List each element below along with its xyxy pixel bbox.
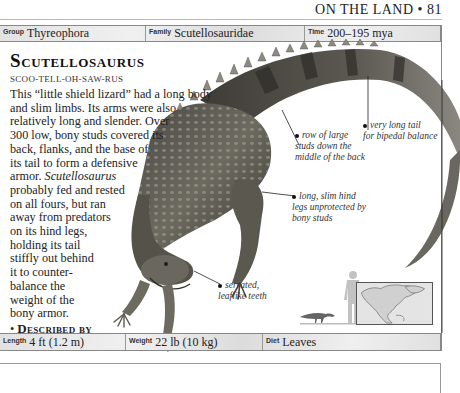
time-value: 200–195 mya (327, 26, 393, 41)
separator-bullet: • (418, 2, 423, 17)
annotation-line: middle of the back (295, 152, 365, 162)
page-number: 81 (427, 2, 442, 17)
group-value: Thyreophora (27, 26, 89, 41)
bottom-info-bar: Length 4 ft (1.2 m) Weight 22 lb (10 kg)… (0, 333, 441, 351)
header-rule (0, 19, 442, 20)
weight-cell: Weight 22 lb (10 kg) (126, 334, 263, 350)
time-cell: Time 200–195 mya (305, 26, 440, 41)
length-cell: Length 4 ft (1.2 m) (0, 334, 126, 350)
annotation-line: long, slim hind (299, 191, 356, 201)
body-line: stiffly out behind (10, 252, 210, 266)
italic-genus-name: Scutellosaurus (45, 169, 117, 183)
body-line: away from predators (10, 211, 210, 225)
pointer-dot-icon (295, 134, 299, 138)
length-value: 4 ft (1.2 m) (29, 335, 84, 350)
body-line: holding its tail (10, 239, 210, 253)
body-line: on its hind legs, (10, 225, 210, 239)
length-label: Length (3, 337, 26, 344)
diet-cell: Diet Leaves (263, 334, 440, 350)
annotation-tail: very long tail for bipedal balance (363, 120, 437, 142)
group-cell: Group Thyreophora (0, 26, 146, 41)
family-cell: Family Scutellosauridae (146, 26, 305, 41)
body-line: relatively long and slender. Over (10, 115, 210, 129)
body-line: it to counter- (10, 266, 210, 280)
pointer-dot-icon (218, 284, 222, 288)
description-text: This “little shield lizard” had a long b… (10, 88, 210, 321)
annotation-studs: row of large studs down the middle of th… (295, 130, 365, 163)
diet-label: Diet (266, 337, 279, 344)
weight-value: 22 lb (10 kg) (155, 335, 217, 350)
time-label: Time (308, 28, 324, 35)
weight-label: Weight (129, 337, 152, 344)
annotation-line: for bipedal balance (363, 131, 437, 141)
annotation-legs: long, slim hind legs unprotected by bony… (292, 191, 366, 224)
pointer-dot-icon (292, 195, 296, 199)
diet-value: Leaves (282, 335, 316, 350)
family-label: Family (149, 28, 171, 35)
body-line: on all fours, but ran (10, 198, 210, 212)
body-line-armor: armor. Scutellosaurus (10, 170, 210, 184)
body-line: and slim limbs. Its arms were also (10, 102, 210, 116)
group-label: Group (3, 28, 24, 35)
annotation-line: very long tail (370, 120, 421, 130)
body-line: armor. (10, 169, 41, 183)
dinosaur-silhouette-icon (300, 313, 335, 323)
body-line: balance the (10, 280, 210, 294)
section-title: ON THE LAND (315, 2, 414, 17)
pronunciation: SCOO-TELL-OH-SAW-RUS (10, 74, 123, 84)
pointer-dot-icon (363, 124, 367, 128)
annotation-line: bony studs (292, 213, 332, 223)
body-line: probably fed and rested (10, 184, 210, 198)
next-entry-rule (0, 363, 441, 364)
body-line: weight of the (10, 294, 210, 308)
annotation-line: serrated, (225, 280, 259, 290)
annotation-line: legs unprotected by (292, 202, 366, 212)
annotation-teeth: serrated, leaflike teeth (218, 280, 267, 302)
annotation-line: studs down the (295, 141, 351, 151)
body-line: back, flanks, and the base of (10, 143, 210, 157)
body-line: This “little shield lizard” had a long b… (10, 88, 210, 102)
top-info-bar: Group Thyreophora Family Scutellosaurida… (0, 25, 441, 42)
body-line: bony armor. (10, 307, 210, 321)
family-value: Scutellosauridae (174, 26, 253, 41)
running-head: ON THE LAND • 81 (315, 2, 442, 18)
annotation-line: leaflike teeth (218, 291, 267, 301)
body-line: its tail to form a defensive (10, 157, 210, 171)
entry-title: Scutellosaurus (10, 50, 145, 72)
north-america-map (356, 282, 433, 325)
next-entry-frame-edge (440, 363, 441, 393)
annotation-line: row of large (302, 130, 348, 140)
body-line: 300 low, bony studs covered its (10, 129, 210, 143)
